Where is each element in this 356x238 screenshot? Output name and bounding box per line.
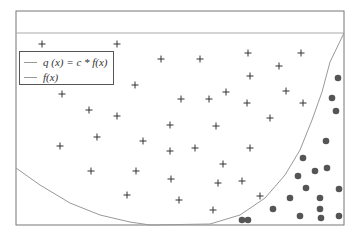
dot-marker-icon: [333, 108, 340, 115]
plus-marker-icon: [88, 168, 95, 175]
plus-marker-icon: [114, 113, 121, 120]
plus-marker-icon: [276, 63, 283, 70]
plus-marker-icon: [206, 96, 213, 103]
dot-marker-icon: [300, 155, 307, 162]
legend-item-q: q (x) = c * f(x): [24, 55, 108, 69]
dot-marker-icon: [324, 165, 331, 172]
plus-marker-icon: [39, 41, 46, 48]
plus-marker-icon: [114, 41, 121, 48]
plus-marker-icon: [140, 138, 147, 145]
dot-marker-icon: [318, 215, 325, 222]
plus-marker-icon: [239, 178, 246, 185]
dot-marker-icon: [317, 206, 324, 213]
plus-marker-icon: [167, 148, 174, 155]
dot-marker-icon: [270, 206, 277, 213]
plus-marker-icon: [178, 96, 185, 103]
plus-marker-icon: [245, 50, 252, 57]
dot-marker-icon: [329, 95, 336, 102]
plus-marker-icon: [86, 107, 93, 114]
curve-line: [16, 168, 150, 225]
plus-marker-icon: [220, 161, 227, 168]
plus-marker-icon: [167, 122, 174, 129]
dot-marker-icon: [295, 173, 302, 180]
plus-marker-icon: [57, 143, 64, 150]
plus-marker-icon: [267, 115, 274, 122]
legend: q (x) = c * f(x) f(x): [19, 51, 114, 85]
plus-marker-icon: [283, 88, 290, 95]
dot-marker-icon: [303, 185, 310, 192]
plus-marker-icon: [298, 50, 305, 57]
chart-plot-area: [0, 0, 356, 238]
plus-marker-icon: [247, 145, 254, 152]
dot-marker-icon: [323, 138, 330, 145]
plus-marker-icon: [124, 192, 131, 199]
dot-marker-icon: [245, 217, 252, 224]
dot-marker-icon: [312, 168, 319, 175]
curve-line: [150, 33, 344, 225]
dot-marker-icon: [297, 213, 304, 220]
plus-marker-icon: [247, 73, 254, 80]
plus-marker-icon: [197, 56, 204, 63]
legend-line-icon: [24, 77, 37, 78]
plus-marker-icon: [133, 168, 140, 175]
dot-marker-icon: [335, 75, 342, 82]
plus-marker-icon: [300, 100, 307, 107]
plus-marker-icon: [94, 134, 101, 141]
plot-frame: [16, 11, 344, 225]
plus-marker-icon: [257, 193, 264, 200]
dot-marker-icon: [336, 213, 343, 220]
plus-marker-icon: [158, 56, 165, 63]
dot-marker-icon: [336, 186, 343, 193]
dot-marker-icon: [287, 195, 294, 202]
dot-marker-icon: [317, 195, 324, 202]
plus-marker-icon: [192, 145, 199, 152]
accepted-points: [239, 75, 343, 224]
plus-marker-icon: [132, 82, 139, 89]
plus-marker-icon: [210, 207, 217, 214]
plus-marker-icon: [213, 123, 220, 130]
legend-label-q: q (x) = c * f(x): [43, 56, 108, 68]
dot-marker-icon: [239, 217, 246, 224]
plus-marker-icon: [176, 197, 183, 204]
plus-marker-icon: [244, 100, 251, 107]
legend-label-f: f(x): [43, 71, 58, 83]
legend-item-f: f(x): [24, 70, 58, 84]
plus-marker-icon: [215, 180, 222, 187]
legend-line-icon: [24, 62, 37, 63]
plus-marker-icon: [168, 176, 175, 183]
plus-marker-icon: [223, 89, 230, 96]
plus-marker-icon: [59, 91, 66, 98]
